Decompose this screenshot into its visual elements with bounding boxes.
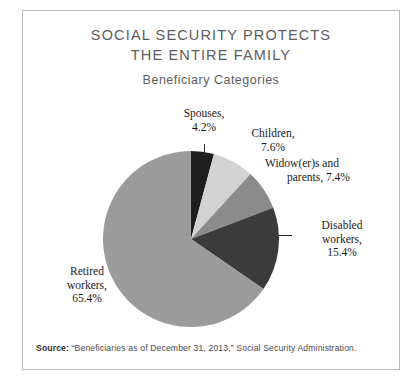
pie-slice-group: [103, 151, 279, 327]
pie-label-spouses-line1: Spouses,: [168, 107, 240, 121]
pie-label-disabled-line3: 15.4%: [301, 246, 383, 260]
pie-label-disabled: Disabled workers, 15.4%: [301, 219, 383, 260]
pie-label-children-line2: 7.6%: [235, 141, 311, 155]
pie-label-children: Children, 7.6%: [235, 127, 311, 154]
pie-label-disabled-line2: workers,: [301, 233, 383, 247]
pie-label-retired: Retired workers, 65.4%: [45, 265, 129, 306]
pie-chart: Spouses, 4.2% Children, 7.6% Widow(er)s …: [23, 11, 401, 371]
leader-line-disabled: [278, 235, 292, 236]
chart-figure: SOCIAL SECURITY PROTECTS THE ENTIRE FAMI…: [22, 10, 400, 370]
source-label: Source:: [36, 343, 69, 353]
pie-label-retired-line2: workers,: [45, 279, 129, 293]
pie-label-retired-line1: Retired: [45, 265, 129, 279]
pie-label-retired-line3: 65.4%: [45, 292, 129, 306]
source-text: “Beneficiaries as of December 31, 2013,”…: [69, 343, 357, 353]
pie-label-spouses: Spouses, 4.2%: [168, 107, 240, 134]
pie-label-widowers-line2: parents, 7.4%: [265, 171, 395, 185]
pie-label-widowers-line1: Widow(er)s and: [265, 157, 395, 171]
leader-line-spouses: [204, 144, 205, 156]
pie-chart-svg: [23, 11, 401, 371]
pie-label-children-line1: Children,: [235, 127, 311, 141]
pie-label-widowers: Widow(er)s and parents, 7.4%: [265, 157, 395, 184]
source-note: Source: “Beneficiaries as of December 31…: [36, 343, 396, 353]
pie-label-spouses-line2: 4.2%: [168, 121, 240, 135]
pie-label-disabled-line1: Disabled: [301, 219, 383, 233]
